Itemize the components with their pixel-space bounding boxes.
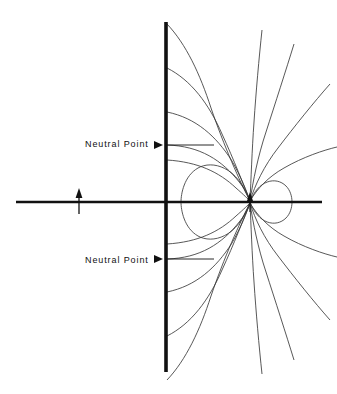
- field-lines-upper-right: [250, 30, 337, 201]
- field-line: [250, 203, 294, 360]
- diagram-canvas: [0, 0, 337, 394]
- field-line: [167, 24, 250, 201]
- field-lines-upper-left: [167, 24, 250, 201]
- field-line: [167, 112, 250, 201]
- field-line-diagram: Neutral Point Neutral Point: [0, 0, 337, 394]
- field-line: [167, 203, 250, 259]
- field-line: [167, 203, 250, 336]
- arrowhead-right-lower: [154, 255, 163, 263]
- neutral-point-label-lower: Neutral Point: [85, 256, 149, 265]
- field-line: [167, 68, 250, 201]
- neutral-point-label-upper: Neutral Point: [85, 140, 149, 149]
- field-lines-lower-left: [167, 203, 250, 380]
- field-line: [250, 44, 294, 201]
- field-line: [250, 84, 330, 201]
- field-lines-lower-right: [250, 203, 337, 374]
- source-dipole-arrowhead: [76, 188, 83, 198]
- arrowhead-right-upper: [154, 141, 163, 149]
- field-line: [250, 147, 337, 201]
- field-line: [167, 145, 250, 201]
- field-line: [167, 203, 250, 292]
- field-line: [250, 203, 337, 257]
- field-line: [250, 203, 330, 320]
- field-line: [167, 203, 250, 380]
